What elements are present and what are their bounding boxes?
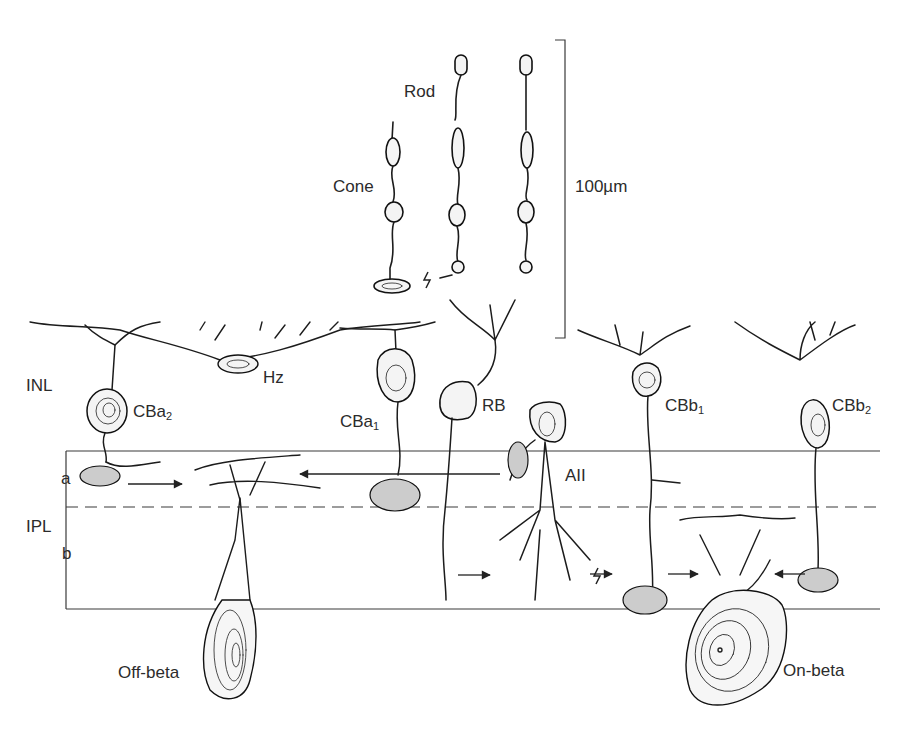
- ipl-boundaries: [66, 451, 880, 609]
- label-sublamina-a: a: [61, 470, 70, 487]
- label-cbb1: CBb1: [665, 397, 704, 416]
- label-cba1: CBa1: [340, 413, 379, 432]
- label-aii: AII: [565, 467, 586, 484]
- label-hz: Hz: [263, 369, 284, 386]
- label-cba1-base: CBa: [340, 412, 373, 431]
- label-sublamina-b: b: [62, 545, 71, 562]
- gap-junction-icon: [594, 568, 600, 584]
- label-cba1-sub: 1: [373, 420, 379, 432]
- gap-junction-icon: [424, 272, 430, 288]
- rod-bipolar-cell: [440, 300, 515, 600]
- label-cba2: CBa2: [133, 403, 172, 422]
- on-beta-ganglion-cell: [680, 515, 795, 705]
- label-cbb2-sub: 2: [865, 404, 871, 416]
- label-cba2-base: CBa: [133, 402, 166, 421]
- label-rb: RB: [482, 397, 506, 414]
- rod-cell-2: [518, 55, 534, 273]
- label-on-beta: On-beta: [783, 662, 844, 679]
- label-cbb1-sub: 1: [698, 404, 704, 416]
- label-scale-bar: 100µm: [575, 178, 627, 195]
- label-cbb2-base: CBb: [832, 396, 865, 415]
- label-cone: Cone: [333, 178, 374, 195]
- cbb2-cell: [735, 322, 855, 592]
- retina-diagram: [0, 0, 908, 729]
- off-beta-ganglion-cell: [195, 455, 320, 699]
- scale-bar: [555, 40, 565, 338]
- label-cbb2: CBb2: [832, 397, 871, 416]
- label-cba2-sub: 2: [166, 410, 172, 422]
- label-cbb1-base: CBb: [665, 396, 698, 415]
- label-ipl: IPL: [26, 518, 52, 535]
- cbb1-cell: [578, 325, 690, 614]
- aii-amacrine-cell: [500, 402, 590, 600]
- cone-cell: [374, 122, 410, 293]
- rod-cell-1: [440, 55, 467, 278]
- label-off-beta: Off-beta: [118, 664, 179, 681]
- label-inl: INL: [26, 377, 52, 394]
- label-rod: Rod: [404, 83, 435, 100]
- synapse-arrows: [128, 474, 805, 575]
